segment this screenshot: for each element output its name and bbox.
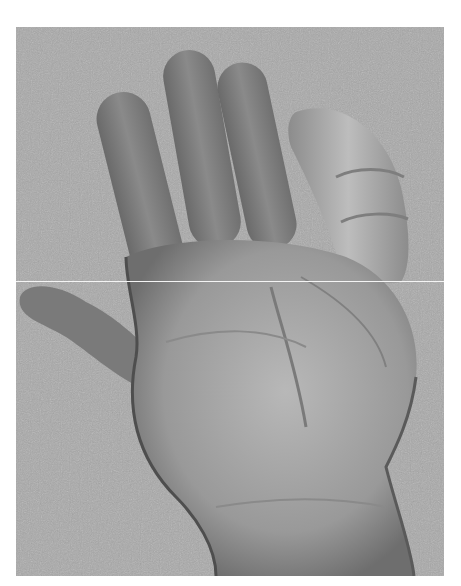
hand-photo [16, 27, 444, 576]
scan-seam-line [16, 281, 444, 282]
hand-illustration [16, 27, 444, 576]
